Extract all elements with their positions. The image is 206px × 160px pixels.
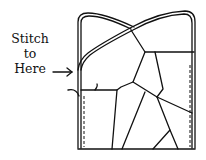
right-arrow-icon <box>53 68 72 76</box>
patch-line <box>153 130 170 149</box>
outer-right-edge <box>78 11 195 148</box>
patch-line <box>122 92 145 149</box>
patch-line <box>131 30 194 52</box>
patch-line <box>81 52 145 90</box>
diagram-svg <box>0 0 206 160</box>
inner-left-edge <box>81 16 131 148</box>
thread-end <box>95 84 97 90</box>
quilt-stitch-diagram: Stitch to Here <box>0 0 206 160</box>
inner-right-edge <box>81 14 192 148</box>
patch-line <box>133 52 163 97</box>
patch-line <box>112 90 117 149</box>
